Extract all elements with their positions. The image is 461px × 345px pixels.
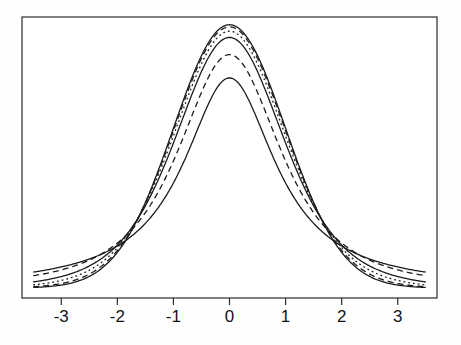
x-tick-label: -1: [166, 307, 181, 326]
density-curves-figure: -3-2-10123: [0, 0, 461, 345]
x-tick-label: 1: [281, 307, 290, 326]
x-tick-label: 0: [225, 307, 234, 326]
x-tick-label: 2: [337, 307, 346, 326]
x-tick-label: -3: [54, 307, 69, 326]
plot-canvas: -3-2-10123: [0, 0, 461, 345]
x-tick-label: 3: [393, 307, 402, 326]
x-tick-label: -2: [110, 307, 125, 326]
plot-box: [22, 17, 437, 298]
